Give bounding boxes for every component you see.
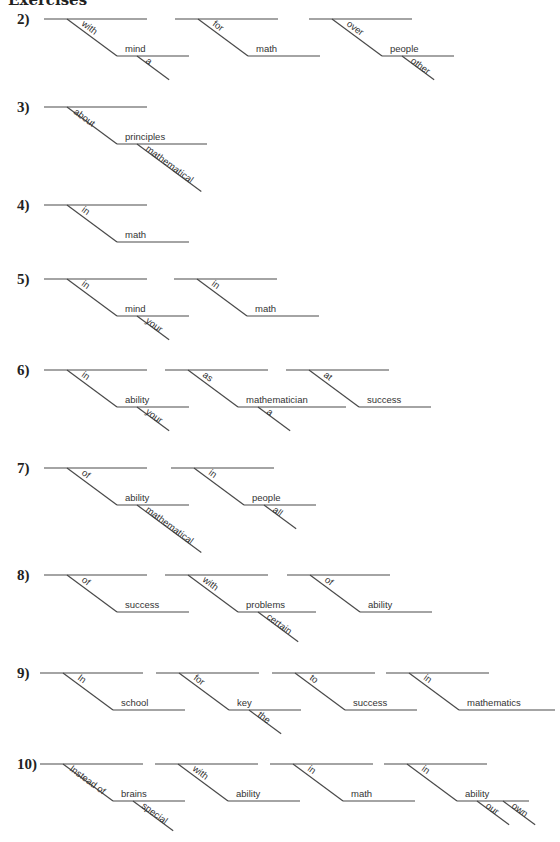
preposition-word: with [200, 573, 221, 592]
preposition-slant-line [293, 764, 343, 801]
object-word: ability [125, 492, 150, 503]
modifier-word: your [144, 406, 165, 426]
preposition-slant-line [407, 764, 457, 801]
object-word: math [351, 788, 372, 799]
object-word: people [252, 492, 281, 503]
preposition-slant-line [67, 468, 117, 505]
object-word: ability [368, 599, 393, 610]
preposition-word: in [80, 204, 92, 217]
object-word: math [255, 303, 276, 314]
preposition-slant-line [67, 575, 117, 612]
preposition-slant-line [194, 468, 244, 505]
object-word: success [367, 394, 402, 405]
preposition-word: in [210, 278, 222, 291]
preposition-slant-line [67, 205, 117, 242]
modifier-word: all [271, 504, 285, 519]
object-word: principles [125, 131, 165, 142]
preposition-word: with [79, 17, 100, 36]
modifier-word: the [256, 709, 273, 726]
preposition-slant-line [63, 673, 113, 710]
preposition-slant-line [409, 673, 459, 710]
preposition-word: in [80, 278, 92, 291]
object-word: problems [246, 599, 285, 610]
object-word: key [237, 697, 252, 708]
object-word: mind [125, 303, 146, 314]
preposition-word: about [72, 106, 98, 129]
preposition-slant-line [309, 370, 359, 407]
object-word: ability [236, 788, 261, 799]
sentence-diagrams: withmindaformathoverpeopleotheraboutprin… [0, 0, 560, 842]
modifier-word: mathematical [144, 504, 196, 546]
object-word: ability [465, 788, 490, 799]
preposition-word: over [345, 18, 366, 38]
preposition-word: in [80, 369, 92, 382]
modifier-word: special [140, 800, 170, 826]
preposition-word: in [306, 763, 318, 776]
object-word: mathematics [467, 697, 521, 708]
object-word: mathematician [246, 394, 308, 405]
preposition-word: in [422, 672, 434, 685]
object-word: mind [125, 43, 146, 54]
modifier-word: our [484, 800, 502, 817]
object-word: brains [121, 788, 147, 799]
object-word: math [125, 229, 146, 240]
preposition-slant-line [67, 370, 117, 407]
preposition-word: in [207, 467, 219, 480]
object-word: success [353, 697, 388, 708]
object-word: success [125, 599, 160, 610]
preposition-word: Instead of [68, 763, 108, 797]
modifier-word: mathematical [144, 143, 196, 185]
preposition-slant-line [67, 279, 117, 316]
preposition-slant-line [295, 673, 345, 710]
preposition-slant-line [310, 575, 360, 612]
object-word: people [390, 43, 419, 54]
preposition-word: in [420, 763, 432, 776]
modifier-word: your [144, 315, 165, 335]
modifier-word: other [409, 55, 433, 77]
object-word: school [121, 697, 148, 708]
modifier-word: certain [265, 611, 294, 637]
object-word: math [256, 43, 277, 54]
object-word: ability [125, 394, 150, 405]
preposition-slant-line [197, 279, 247, 316]
modifier-word: own [510, 800, 531, 819]
preposition-word: with [190, 762, 211, 781]
